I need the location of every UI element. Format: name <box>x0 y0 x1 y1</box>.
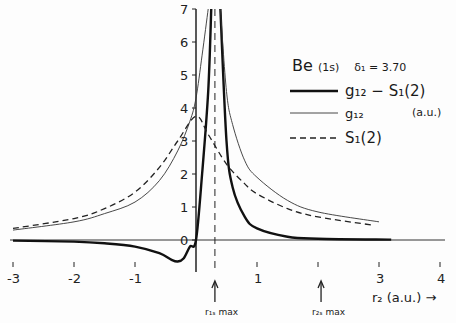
chart-figure: 01234567-3-2-1134 Be (1s) δ₁ = 3.70 g₁₂ … <box>0 0 456 323</box>
x-tick-label: -2 <box>68 271 81 286</box>
plot-area: 01234567-3-2-1134 <box>0 0 456 323</box>
curve-s1 <box>13 116 373 228</box>
x-axis-label: r₂ (a.u.) → <box>372 290 436 305</box>
x-tick-label: -1 <box>129 271 142 286</box>
y-tick-label: 7 <box>180 2 188 17</box>
x-tick-label: 4 <box>437 271 445 286</box>
x-tick-label: 3 <box>376 271 384 286</box>
legend-item-g12-minus-s1: g₁₂ − S₁(2) <box>345 82 425 100</box>
curve-g12-minus-s1 <box>220 9 391 240</box>
x-tick-label: -3 <box>7 271 20 286</box>
y-tick-label: 4 <box>180 101 188 116</box>
x-tick-label: 1 <box>254 271 262 286</box>
y-tick-label: 1 <box>180 200 188 215</box>
legend-title: Be (1s) δ₁ = 3.70 <box>292 56 406 75</box>
y-tick-label: 0 <box>180 233 188 248</box>
y-tick-label: 5 <box>180 68 188 83</box>
r2s-max-label: r₂ₛ max <box>312 306 345 318</box>
state-label: (1s) <box>318 61 339 74</box>
y-tick-label: 6 <box>180 35 188 50</box>
r1s-max-label: r₁ₛ max <box>205 306 238 318</box>
curve-g12 <box>13 9 208 230</box>
y-tick-label: 2 <box>180 167 188 182</box>
legend-item-s1: S₁(2) <box>345 129 382 147</box>
legend-item-g12: g₁₂ <box>345 106 364 121</box>
element-label: Be <box>292 56 313 75</box>
delta-param: δ₁ = 3.70 <box>354 61 406 74</box>
unit-label: (a.u.) <box>412 106 441 119</box>
